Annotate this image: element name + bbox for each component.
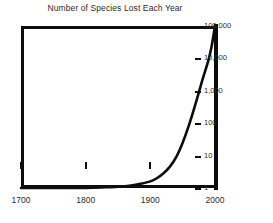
- y-tick: [195, 123, 201, 125]
- x-tick: [149, 162, 151, 169]
- y-tick: [195, 156, 201, 158]
- chart-figure: Number of Species Lost Each Year 1101001…: [0, 0, 273, 223]
- x-tick-label: 1700: [12, 196, 31, 205]
- y-tick-label: 1: [204, 184, 208, 192]
- x-tick-label: 1900: [141, 196, 160, 205]
- y-tick-label: 100: [204, 119, 217, 127]
- x-tick-label: 2000: [206, 196, 225, 205]
- y-tick: [195, 91, 201, 93]
- y-tick: [195, 188, 201, 190]
- y-tick-label: 100,000: [204, 22, 231, 30]
- y-tick: [195, 58, 201, 60]
- chart-title: Number of Species Lost Each Year: [0, 3, 230, 14]
- y-tick-label: 10: [204, 152, 212, 160]
- data-series-line: [21, 26, 215, 188]
- x-tick: [20, 162, 22, 169]
- y-tick-label: 10,000: [204, 54, 227, 62]
- x-tick: [214, 162, 216, 169]
- plot-area: [21, 26, 215, 188]
- x-tick-label: 1800: [76, 196, 95, 205]
- y-tick: [195, 26, 201, 28]
- y-tick-label: 1,000: [204, 87, 223, 95]
- x-tick: [85, 162, 87, 169]
